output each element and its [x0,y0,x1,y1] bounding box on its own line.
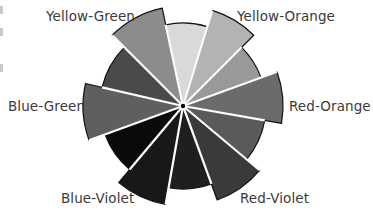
label-yellow-green: Yellow-Green [46,8,135,24]
label-blue-violet: Blue-Violet [61,190,134,206]
label-red-violet: Red-Violet [240,190,309,206]
center-point [181,104,185,108]
label-red-orange: Red-Orange [289,98,371,114]
label-blue-green: Blue-Green [8,98,85,114]
label-yellow-orange: Yellow-Orange [237,8,335,24]
